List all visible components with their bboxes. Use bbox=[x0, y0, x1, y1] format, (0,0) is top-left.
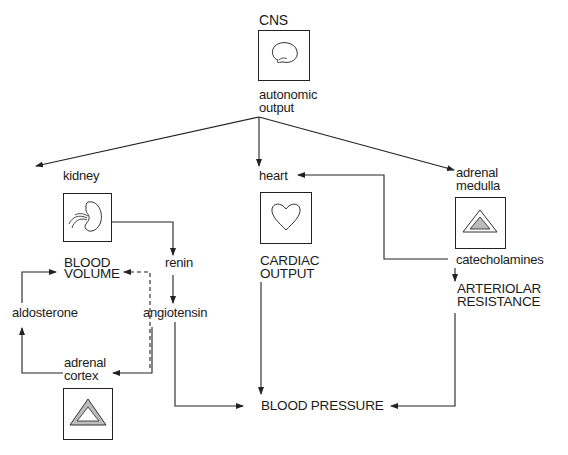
kidney-box bbox=[63, 193, 112, 242]
adrenal-medulla-line2: medulla bbox=[456, 179, 500, 193]
edge-catecholamines-heart bbox=[298, 175, 448, 259]
edge-angiotensin-bp bbox=[175, 322, 243, 406]
adrenal-medulla-box bbox=[455, 197, 506, 249]
adrenal-cortex-icon bbox=[64, 389, 112, 439]
heart-box bbox=[260, 192, 312, 244]
aldosterone-label: aldosterone bbox=[12, 306, 78, 320]
cardiac-output-line2: OUTPUT bbox=[260, 267, 314, 281]
renin-label: renin bbox=[165, 256, 193, 270]
cns-label: CNS bbox=[259, 13, 288, 27]
edge-aldosterone-bloodvolume bbox=[22, 272, 56, 303]
angiotensin-label: angiotensin bbox=[143, 306, 207, 320]
adrenal-cortex-box bbox=[63, 388, 113, 440]
heart-label: heart bbox=[259, 169, 288, 183]
edge-cortex-aldosterone bbox=[22, 328, 63, 373]
kidney-label: kidney bbox=[63, 169, 99, 183]
edge-autonomic-kidney bbox=[36, 117, 259, 166]
catecholamines-label: catecholamines bbox=[456, 253, 544, 267]
autonomic-output-line2: output bbox=[259, 101, 294, 115]
blood-pressure-label: BLOOD PRESSURE bbox=[261, 399, 383, 413]
edge-kidney-renin bbox=[111, 222, 173, 255]
kidney-icon bbox=[64, 194, 111, 241]
adrenal-medulla-icon bbox=[456, 198, 505, 248]
edge-angiotensin-cortex bbox=[113, 327, 152, 373]
edge-resistance-bp bbox=[391, 313, 455, 406]
brain-icon bbox=[259, 31, 309, 80]
edge-autonomic-medulla bbox=[259, 117, 454, 170]
blood-volume-line2: VOLUME bbox=[64, 267, 120, 281]
arteriolar-resistance-line2: RESISTANCE bbox=[457, 295, 540, 309]
edge-angiotensin-bloodvolume bbox=[124, 272, 150, 368]
cns-box bbox=[258, 30, 310, 81]
blood-pressure-diagram: CNS autonomic output kidney BLOOD VOLUME… bbox=[0, 0, 568, 455]
heart-icon bbox=[261, 193, 311, 243]
adrenal-cortex-line2: cortex bbox=[64, 369, 98, 383]
